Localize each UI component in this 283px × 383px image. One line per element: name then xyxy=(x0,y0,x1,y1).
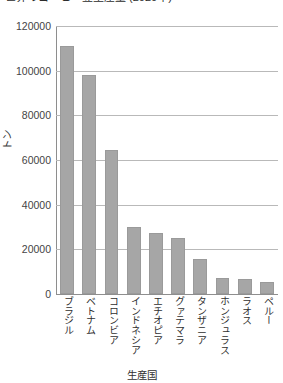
gridline xyxy=(56,71,278,72)
y-axis-tick-label: 40000 xyxy=(3,200,51,211)
bar xyxy=(260,282,274,294)
y-axis-tick-label: 100000 xyxy=(3,66,51,77)
y-axis-tick-label: 60000 xyxy=(3,155,51,166)
bar xyxy=(216,278,230,294)
gridline xyxy=(56,26,278,27)
x-axis-tick-label: ベトナム xyxy=(84,296,95,335)
y-axis-tick-label: 120000 xyxy=(3,21,51,32)
x-axis-tick-label: ブラジル xyxy=(62,296,73,335)
bar xyxy=(82,75,96,294)
bar xyxy=(193,259,207,294)
x-axis-title: 生産国 xyxy=(0,367,283,382)
bar xyxy=(60,46,74,294)
bar xyxy=(127,227,141,294)
x-axis-tick-labels: ブラジルベトナムコロンビアインドネシアエチオピアグァテマラタンザニアホンジュラス… xyxy=(56,296,278,362)
y-axis-tick-label: 0 xyxy=(3,289,51,300)
y-axis-title: トン xyxy=(0,130,14,150)
bar xyxy=(171,238,185,294)
x-axis-tick-label: ラオス xyxy=(240,296,251,325)
gridline xyxy=(56,294,278,295)
x-axis-tick-label: コロンビア xyxy=(107,296,118,345)
x-axis-tick-label: インドネシア xyxy=(129,296,140,354)
bar xyxy=(149,233,163,294)
y-axis-tick-label: 20000 xyxy=(3,244,51,255)
bar xyxy=(105,150,119,294)
x-axis-tick-label: ペルー xyxy=(262,296,273,325)
plot-area xyxy=(56,26,278,294)
x-axis-tick-label: ホンジュラス xyxy=(218,296,229,354)
y-axis-tick-labels: 020000400006000080000100000120000 xyxy=(0,0,51,383)
y-axis-tick-label: 80000 xyxy=(3,110,51,121)
bar xyxy=(238,279,252,294)
x-axis-tick-label: グァテマラ xyxy=(173,296,184,345)
bar-chart: 世界のコーヒー豆生産量 (2020年) 02000040000600008000… xyxy=(0,0,283,383)
x-axis-tick-label: タンザニア xyxy=(195,296,206,345)
x-axis-tick-label: エチオピア xyxy=(151,296,162,345)
